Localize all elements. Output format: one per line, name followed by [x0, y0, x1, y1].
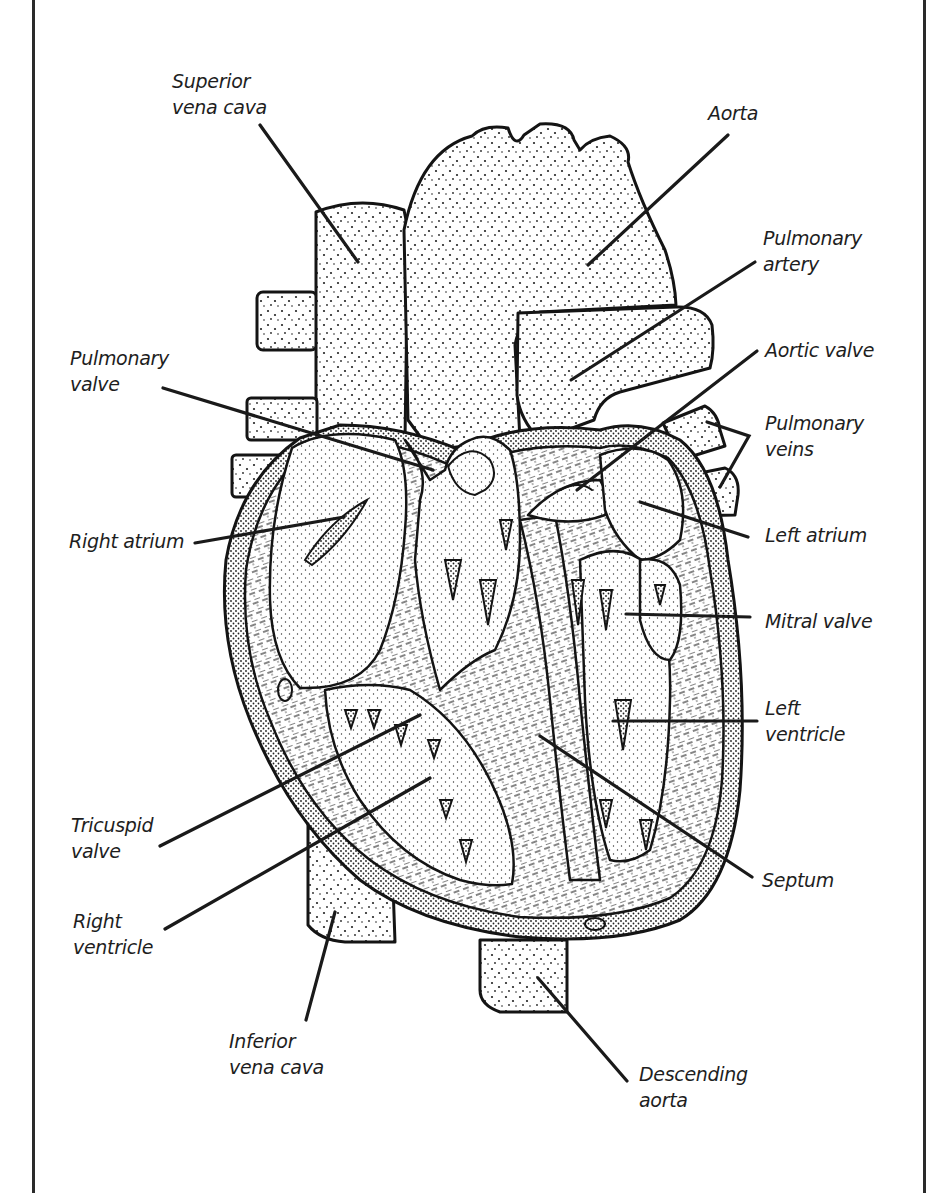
heart-diagram: Superiorvena cavaAortaPulmonaryarteryPul… [0, 0, 945, 1193]
label-text: aorta [639, 1089, 688, 1111]
label-text: Right atrium [69, 530, 184, 552]
label-text: Aortic valve [763, 339, 874, 361]
leader-line [260, 125, 358, 262]
label-text: vena cava [229, 1056, 324, 1078]
label-descending-aorta: Descendingaorta [538, 978, 748, 1111]
label-text: Mitral valve [765, 610, 872, 632]
label-text: Right [73, 910, 123, 932]
descending-aorta-shape [480, 940, 567, 1012]
label-text: valve [70, 373, 120, 395]
label-text: ventricle [73, 936, 153, 958]
label-text: Superior [172, 70, 251, 92]
label-text: Pulmonary [70, 347, 170, 369]
label-text: Pulmonary [765, 412, 865, 434]
label-text: Septum [762, 869, 834, 891]
label-text: ventricle [765, 723, 845, 745]
label-text: valve [71, 840, 121, 862]
label-text: Inferior [229, 1030, 297, 1052]
label-text: veins [765, 438, 814, 460]
label-text: Tricuspid [71, 814, 155, 836]
label-text: Left atrium [765, 524, 867, 546]
leader-line [538, 978, 627, 1081]
label-text: Left [765, 697, 802, 719]
label-text: vena cava [172, 96, 267, 118]
label-text: artery [763, 253, 820, 275]
label-text: Aorta [706, 102, 758, 124]
label-text: Descending [639, 1063, 748, 1085]
label-inferior-vena-cava: Inferiorvena cava [229, 912, 335, 1078]
label-text: Pulmonary [763, 227, 863, 249]
